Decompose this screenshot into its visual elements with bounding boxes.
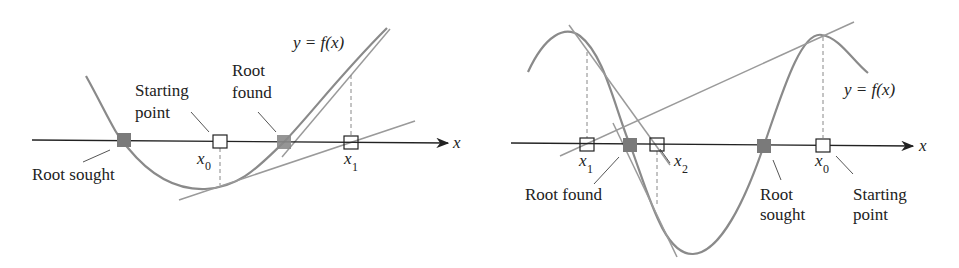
right-x0-sub: 0 [823, 162, 829, 176]
right-starting-point-label-1: Starting [853, 185, 907, 204]
right-leader-root-sought [773, 160, 781, 180]
right-axis-label: x [918, 136, 927, 155]
left-function-curve [86, 28, 387, 189]
left-root-found-label-2: found [232, 83, 272, 102]
right-root-sought-label-2: sought [760, 205, 806, 224]
right-tangent-x0 [560, 22, 854, 156]
right-root-found-label: Root found [525, 185, 602, 204]
right-x1-marker [580, 138, 594, 151]
left-starting-point-label-2: point [135, 103, 170, 122]
left-root-found-label-1: Root [232, 61, 265, 80]
right-starting-point-label-2: point [853, 205, 888, 224]
right-x-axis [511, 143, 913, 146]
left-x1-marker [344, 136, 358, 149]
left-root-found-marker [277, 135, 291, 149]
left-leader-starting-point [191, 112, 209, 132]
newton-method-diagram: y = f(x) x Starting point Root found Roo… [0, 0, 959, 268]
right-x1-sub: 1 [587, 162, 593, 176]
left-leader-root-sought [83, 150, 110, 162]
right-x0-var: x [814, 151, 823, 170]
left-starting-point-label-1: Starting [135, 81, 189, 100]
right-root-sought-marker [757, 139, 771, 153]
left-x1-var: x [343, 149, 352, 168]
left-panel: y = f(x) x Starting point Root found Roo… [32, 28, 461, 200]
left-x0-marker [213, 135, 227, 148]
left-x-axis [32, 140, 448, 143]
right-x2-var: x [673, 151, 682, 170]
left-tangent-x0 [179, 121, 415, 200]
right-panel: y = f(x) x Root found Root sought Starti… [511, 22, 927, 257]
right-x1-var: x [578, 151, 587, 170]
left-root-sought-label: Root sought [32, 165, 115, 184]
right-leader-starting-point [836, 156, 853, 174]
right-curve-label: y = f(x) [842, 80, 895, 99]
left-leader-root-found [258, 112, 276, 132]
left-axis-label: x [452, 133, 461, 152]
left-x0-sub: 0 [205, 159, 211, 173]
left-x0-var: x [196, 149, 205, 168]
left-curve-label: y = f(x) [291, 33, 344, 52]
right-leader-root-found [594, 157, 619, 184]
right-tangent-x2 [613, 123, 677, 257]
left-x1-sub: 1 [352, 160, 358, 174]
right-x2-sub: 2 [682, 162, 688, 176]
right-root-found-marker [623, 138, 637, 152]
right-root-sought-label-1: Root [760, 185, 793, 204]
left-root-sought-marker [117, 133, 131, 147]
right-x2-marker [650, 138, 664, 151]
